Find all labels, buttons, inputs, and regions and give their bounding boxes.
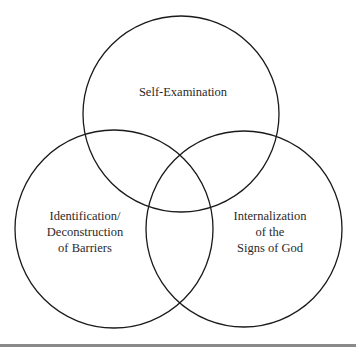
label-internalization: Internalization of the Signs of God bbox=[234, 208, 307, 256]
label-self-examination: Self-Examination bbox=[139, 84, 227, 100]
label-line: of Barriers bbox=[47, 240, 123, 256]
venn-diagram bbox=[0, 0, 356, 347]
label-line: Identification/ bbox=[47, 208, 123, 224]
label-line: Signs of God bbox=[234, 240, 307, 256]
label-line: Deconstruction bbox=[47, 224, 123, 240]
label-line: Internalization bbox=[234, 208, 307, 224]
label-line: of the bbox=[234, 224, 307, 240]
circle-self-examination bbox=[83, 16, 279, 212]
label-line: Self-Examination bbox=[139, 84, 227, 100]
label-identification-deconstruction: Identification/ Deconstruction of Barrie… bbox=[47, 208, 123, 256]
